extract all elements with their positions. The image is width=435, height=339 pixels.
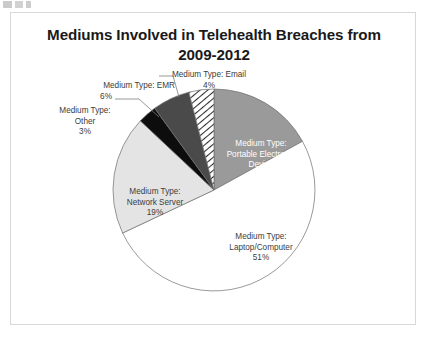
slice-label-line-2: Laptop/Computer [229,243,292,252]
callout-label-other: Medium Type: Other 3% [35,106,135,138]
slice-label-line-2: Portable Electronic [227,150,296,159]
slice-label-line-2: Network Server [127,198,183,207]
pie-chart: Medium Type: Portable Electronic Device … [11,13,417,326]
callout-label-percent: 4% [203,81,215,90]
slice-label-percent: 51% [207,253,315,264]
callout-label-line-1: Medium Type: EMR [103,81,175,90]
slice-label-percent: 19% [103,208,207,219]
slice-label-portable-electronic-device: Medium Type: Portable Electronic Device … [209,139,313,181]
slice-label-percent: 17% [209,171,313,182]
slice-label-line-3: Device [248,160,273,169]
chart-frame: Mediums Involved in Telehealth Breaches … [10,12,416,325]
slice-label-line-1: Medium Type: [235,139,286,148]
slice-label-network-server: Medium Type: Network Server 19% [103,187,207,219]
scan-artifact [3,1,31,8]
callout-label-percent: 6% [71,92,175,103]
callout-label-line-2: Other [75,117,95,126]
callout-label-line-1: Medium Type: Email [172,70,246,79]
callout-label-percent: 3% [79,127,91,136]
callout-label-line-1: Medium Type: [59,106,110,115]
callout-label-emr: Medium Type: EMR 6% [71,81,175,102]
slice-label-line-1: Medium Type: [129,187,180,196]
slice-label-line-1: Medium Type: [235,232,286,241]
slice-label-laptop-computer: Medium Type: Laptop/Computer 51% [207,232,315,264]
